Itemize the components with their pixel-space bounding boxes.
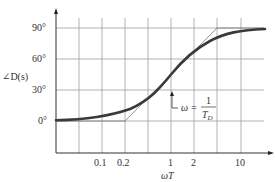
y-tick-90: 90° (32, 22, 46, 33)
x-tick-0.1: 0.1 (94, 157, 107, 168)
annotation-omega: ω = 1 TD (170, 91, 216, 122)
y-axis-arrow-icon (54, 8, 58, 14)
asymptote-line (56, 28, 264, 121)
x-tick-2: 2 (191, 157, 196, 168)
y-axis-label: ∠D(s) (2, 71, 28, 83)
annotation-lhs: ω = (181, 102, 197, 113)
annotation-numerator: 1 (206, 95, 211, 106)
y-tick-0: 0° (38, 115, 47, 126)
x-tick-10: 10 (235, 157, 245, 168)
x-tick-0.2: 0.2 (117, 157, 130, 168)
x-axis-arrow-icon (268, 151, 274, 155)
horizontal-gridlines (56, 28, 264, 121)
phase-curve (56, 29, 265, 120)
y-tick-60: 60° (32, 53, 46, 64)
phase-plot: ω = 1 TD 90° 60° 30° 0° ∠D(s) 0.1 0.2 1 … (0, 0, 275, 182)
x-axis-label: ωT (161, 170, 175, 181)
y-tick-30: 30° (32, 84, 46, 95)
x-tick-1: 1 (168, 157, 173, 168)
annotation-denominator: TD (202, 109, 213, 122)
